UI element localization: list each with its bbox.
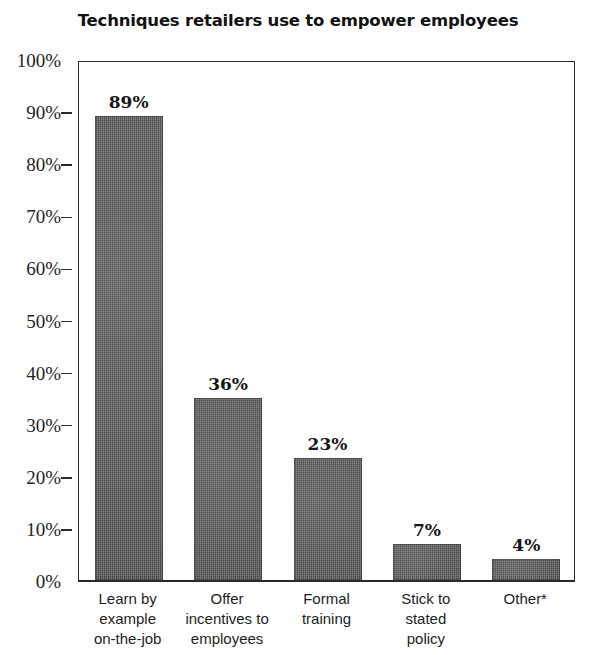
bar-column[interactable]: 89% — [95, 59, 163, 580]
bar[interactable] — [492, 559, 560, 580]
y-axis-tick-label: 0% — [36, 571, 61, 593]
bar-value-label: 7% — [413, 520, 441, 540]
y-axis-tick-label: 20% — [26, 467, 61, 489]
y-axis-tick-label: 80% — [26, 154, 61, 176]
bar[interactable] — [393, 544, 461, 580]
x-axis-category-label: Offer incentives to employees — [177, 589, 276, 649]
y-axis-tick-mark — [61, 321, 72, 323]
y-axis-tick-label: 30% — [26, 415, 61, 437]
x-axis-category-label: Other* — [476, 589, 575, 609]
y-axis-tick-mark — [61, 112, 72, 114]
y-axis-tick-mark — [61, 425, 72, 427]
y-axis-tick-mark — [61, 164, 72, 166]
bar-column[interactable]: 36% — [194, 59, 262, 580]
bar-value-label: 36% — [208, 374, 248, 394]
bar[interactable] — [95, 116, 163, 580]
y-axis: 100%90%80%70%60%50%40%30%20%10%0% — [0, 0, 78, 655]
y-axis-tick-label: 100% — [17, 50, 61, 72]
y-axis-tick-label: 90% — [26, 102, 61, 124]
y-axis-tick-label: 10% — [26, 519, 61, 541]
y-axis-tick-mark — [61, 477, 72, 479]
bar-value-label: 23% — [308, 434, 348, 454]
y-axis-tick-mark — [61, 373, 72, 375]
bar-column[interactable]: 23% — [294, 59, 362, 580]
bar[interactable] — [294, 458, 362, 580]
bar-chart-figure: Techniques retailers use to empower empl… — [0, 0, 596, 655]
bar[interactable] — [194, 398, 262, 580]
x-axis-category-label: Stick to stated policy — [376, 589, 475, 649]
bar-column[interactable]: 4% — [492, 59, 560, 580]
y-axis-tick-mark — [61, 269, 72, 271]
x-axis-category-label: Formal training — [277, 589, 376, 629]
bar-column[interactable]: 7% — [393, 59, 461, 580]
x-axis-category-label: Learn by example on-the-job — [78, 589, 177, 649]
bar-value-label: 4% — [512, 535, 540, 555]
bar-value-label: 89% — [109, 92, 149, 112]
y-axis-tick-label: 70% — [26, 206, 61, 228]
chart-title: Techniques retailers use to empower empl… — [0, 11, 596, 30]
y-axis-tick-mark — [61, 217, 72, 219]
y-axis-tick-label: 40% — [26, 363, 61, 385]
plot-area: 89%36%23%7%4% — [78, 61, 575, 582]
y-axis-tick-label: 60% — [26, 258, 61, 280]
y-axis-tick-label: 50% — [26, 311, 61, 333]
y-axis-tick-mark — [61, 529, 72, 531]
